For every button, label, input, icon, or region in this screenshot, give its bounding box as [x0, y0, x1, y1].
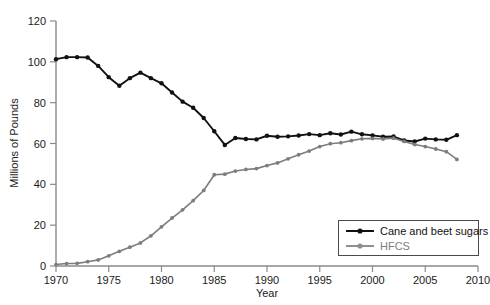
- data-point: [339, 132, 343, 136]
- data-point: [328, 131, 332, 135]
- data-point: [307, 149, 311, 153]
- data-point: [254, 137, 258, 141]
- x-tick-label: 1980: [149, 274, 173, 286]
- x-tick-label: 2005: [413, 274, 437, 286]
- chart-container: 020406080100120 197019751980198519901995…: [0, 0, 490, 305]
- data-point: [296, 133, 300, 137]
- x-tick-label: 1985: [202, 274, 226, 286]
- x-tick-label: 2000: [360, 274, 384, 286]
- data-point: [191, 199, 195, 203]
- x-tick-label: 1990: [255, 274, 279, 286]
- data-point: [170, 90, 174, 94]
- data-point: [360, 137, 364, 141]
- data-point: [339, 141, 343, 145]
- data-point: [138, 70, 142, 74]
- data-point: [318, 133, 322, 137]
- data-point: [413, 143, 417, 147]
- data-point: [371, 137, 375, 141]
- data-point: [423, 145, 427, 149]
- data-point: [307, 132, 311, 136]
- data-point: [276, 161, 280, 165]
- data-point: [180, 99, 184, 103]
- data-point: [202, 116, 206, 120]
- data-point: [170, 216, 174, 220]
- y-axis-title: Millions of Pounds: [8, 98, 20, 188]
- data-point: [128, 76, 132, 80]
- data-point: [265, 134, 269, 138]
- data-point: [96, 64, 100, 68]
- data-point: [54, 263, 58, 267]
- data-point: [350, 139, 354, 143]
- legend-swatch-marker-series-a: [357, 228, 362, 233]
- chart-background: [0, 0, 490, 305]
- data-point: [244, 168, 248, 172]
- data-point: [85, 55, 89, 59]
- x-tick-label: 1970: [44, 274, 68, 286]
- data-point: [212, 129, 216, 133]
- data-point: [139, 241, 143, 245]
- legend-label-series-a: Cane and beet sugars: [380, 225, 489, 237]
- data-point: [96, 258, 100, 262]
- x-tick-label: 1975: [97, 274, 121, 286]
- data-point: [223, 172, 227, 176]
- chart-legend: Cane and beet sugars HFCS: [339, 221, 489, 256]
- data-point: [65, 262, 69, 266]
- data-point: [360, 132, 364, 136]
- data-point: [75, 261, 79, 265]
- data-point: [223, 143, 227, 147]
- data-point: [444, 150, 448, 154]
- y-tick-label: 20: [34, 219, 46, 231]
- data-point: [402, 140, 406, 144]
- data-point: [160, 225, 164, 229]
- data-point: [275, 135, 279, 139]
- data-point: [86, 260, 90, 264]
- data-point: [117, 249, 121, 253]
- y-tick-label: 0: [40, 260, 46, 272]
- data-point: [159, 81, 163, 85]
- data-point: [265, 164, 269, 168]
- data-point: [117, 84, 121, 88]
- data-point: [107, 75, 111, 79]
- data-point: [107, 254, 111, 258]
- data-point: [191, 106, 195, 110]
- data-point: [244, 137, 248, 141]
- data-point: [75, 55, 79, 59]
- data-point: [233, 136, 237, 140]
- legend-label-series-b: HFCS: [380, 240, 410, 252]
- data-point: [444, 138, 448, 142]
- data-point: [181, 208, 185, 212]
- data-point: [349, 129, 353, 133]
- data-point: [233, 169, 237, 173]
- data-point: [54, 57, 58, 61]
- data-point: [255, 167, 259, 171]
- y-tick-label: 60: [34, 138, 46, 150]
- line-chart: 020406080100120 197019751980198519901995…: [0, 0, 490, 305]
- data-point: [64, 55, 68, 59]
- legend-swatch-marker-series-b: [357, 243, 362, 248]
- data-point: [149, 76, 153, 80]
- data-point: [318, 145, 322, 149]
- y-tick-label: 100: [28, 56, 46, 68]
- data-point: [434, 147, 438, 151]
- y-tick-label: 40: [34, 178, 46, 190]
- data-point: [286, 134, 290, 138]
- data-point: [202, 189, 206, 193]
- data-point: [434, 137, 438, 141]
- data-point: [212, 173, 216, 177]
- x-tick-label: 2010: [466, 274, 490, 286]
- data-point: [128, 245, 132, 249]
- data-point: [455, 133, 459, 137]
- data-point: [392, 136, 396, 140]
- data-point: [328, 142, 332, 146]
- x-axis-title: Year: [256, 287, 279, 299]
- data-point: [423, 136, 427, 140]
- data-point: [149, 234, 153, 238]
- y-tick-label: 80: [34, 97, 46, 109]
- data-point: [455, 158, 459, 162]
- data-point: [297, 153, 301, 157]
- x-tick-label: 1995: [308, 274, 332, 286]
- data-point: [381, 137, 385, 141]
- y-tick-label: 120: [28, 15, 46, 27]
- data-point: [286, 157, 290, 161]
